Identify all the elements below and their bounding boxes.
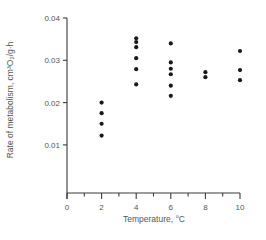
data-point: [134, 56, 138, 60]
data-point: [169, 84, 173, 88]
data-point: [169, 67, 173, 71]
scatter-chart: 0.010.020.030.04 0246810 Temperature, °C…: [0, 0, 266, 240]
x-axis-label: Temperature, °C: [123, 214, 185, 224]
x-axis: 0246810: [65, 193, 245, 212]
x-tick-label: 6: [169, 203, 174, 212]
data-point: [100, 122, 104, 126]
data-point: [100, 111, 104, 115]
y-tick-label: 0.01: [44, 141, 60, 150]
data-point: [238, 68, 242, 72]
x-tick-label: 2: [99, 203, 104, 212]
data-point: [169, 60, 173, 64]
y-axis: 0.010.020.030.04: [44, 14, 67, 199]
x-tick-label: 0: [65, 203, 70, 212]
data-point: [203, 70, 207, 74]
y-tick-label: 0.02: [44, 99, 60, 108]
data-point: [169, 94, 173, 98]
data-point: [134, 67, 138, 71]
x-tick-label: 10: [236, 203, 245, 212]
x-tick-label: 4: [134, 203, 139, 212]
data-point: [134, 40, 138, 44]
y-tick-label: 0.03: [44, 56, 60, 65]
data-points: [100, 36, 243, 137]
data-point: [169, 72, 173, 76]
data-point: [134, 36, 138, 40]
y-tick-label: 0.04: [44, 14, 60, 23]
data-point: [100, 133, 104, 137]
data-point: [169, 41, 173, 45]
x-tick-label: 8: [203, 203, 208, 212]
data-point: [203, 75, 207, 79]
data-point: [134, 45, 138, 49]
data-point: [238, 78, 242, 82]
data-point: [238, 49, 242, 53]
data-point: [134, 82, 138, 86]
y-axis-label: Rate of metabolism, cm³O₂/g·h: [5, 41, 15, 158]
data-point: [100, 101, 104, 105]
